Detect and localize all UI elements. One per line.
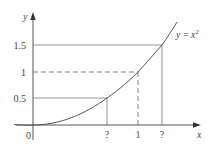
y-tick-label-1: 1	[21, 67, 26, 78]
x-tick-label-unknown-left: ?	[105, 129, 110, 140]
y-axis-arrow-icon	[30, 12, 35, 20]
y-tick-label-0-5: 0.5	[14, 93, 27, 104]
y-axis-label: y	[22, 11, 28, 22]
function-label: y = x2	[175, 28, 200, 40]
x-axis-arrow-icon	[193, 122, 201, 127]
y-tick-label-1-5: 1.5	[14, 40, 27, 51]
x-axis-label: x	[196, 129, 202, 140]
function-graph: y x 0 1.5 1 0.5 ? 1 ? y = x2	[0, 0, 214, 148]
function-label-exponent: 2	[196, 28, 200, 36]
x-tick-label-unknown-right: ?	[160, 129, 165, 140]
function-label-eq: =	[180, 29, 191, 40]
origin-label: 0	[26, 130, 31, 141]
parabola-curve	[14, 22, 177, 125]
x-tick-label-1: 1	[136, 129, 141, 140]
